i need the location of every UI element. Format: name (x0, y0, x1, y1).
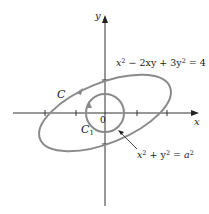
pointer-arrowhead-icon (118, 130, 124, 135)
origin-label: 0 (100, 116, 106, 125)
ellipse-label: C (57, 89, 65, 100)
x-axis (13, 110, 199, 116)
y-axis-arrow-icon (102, 15, 108, 23)
circle-label: C1 (81, 124, 94, 137)
y-axis-label: y (95, 11, 101, 21)
ellipse-equation: x2 − 2xy + 3y2 = 4 (116, 58, 206, 68)
circle-label-subscript: 1 (89, 129, 93, 137)
y-axis (102, 15, 108, 206)
x-axis-label: x (194, 117, 200, 127)
figure-canvas (0, 0, 209, 214)
circle-equation: x2 + y2 = a2 (137, 150, 194, 160)
